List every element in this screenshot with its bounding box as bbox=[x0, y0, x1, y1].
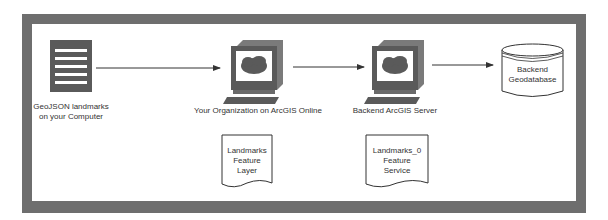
document-label-feature-layer: Landmarks Feature Layer bbox=[222, 146, 272, 176]
node-label-arcgis-server: Backend ArcGIS Server bbox=[345, 106, 445, 116]
computer-cloud-icon bbox=[223, 40, 283, 104]
document-lines-icon bbox=[50, 40, 92, 92]
node-label-geodatabase: Backend Geodatabase bbox=[502, 65, 563, 85]
computer-cloud-icon bbox=[364, 40, 424, 104]
document-label-feature-service: Landmarks_0 Feature Service bbox=[366, 146, 428, 176]
node-label-arcgis-online: Your Organization on ArcGIS Online bbox=[188, 106, 328, 116]
node-label-geojson: GeoJSON landmarks on your Computer bbox=[21, 102, 121, 122]
